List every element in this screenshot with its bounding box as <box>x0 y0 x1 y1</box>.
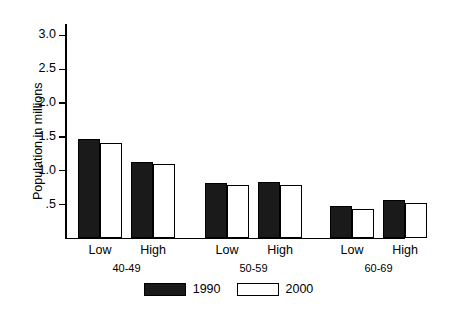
legend-item-1990: 1990 <box>144 283 221 296</box>
bar-2000-50-59-High <box>280 185 302 238</box>
x-group-label: 50-59 <box>214 263 294 274</box>
bar-2000-60-69-High <box>405 203 427 238</box>
x-group-label: 40-49 <box>87 263 167 274</box>
x-category-label: Low <box>70 244 130 257</box>
bar-2000-40-49-Low <box>100 143 122 238</box>
bar-1990-40-49-Low <box>78 139 100 238</box>
x-category-label: Low <box>197 244 257 257</box>
legend-label: 2000 <box>286 283 314 296</box>
x-category-label: Low <box>322 244 382 257</box>
x-group-label: 60-69 <box>339 263 419 274</box>
x-category-label: High <box>123 244 183 257</box>
bar-2000-50-59-Low <box>227 185 249 238</box>
x-category-label: High <box>375 244 435 257</box>
legend-item-2000: 2000 <box>237 283 314 296</box>
legend-label: 1990 <box>193 283 221 296</box>
bar-1990-60-69-High <box>383 200 405 238</box>
legend-swatch-2000 <box>237 283 279 296</box>
bar-1990-50-59-High <box>258 182 280 238</box>
bar-2000-60-69-Low <box>352 209 374 238</box>
bar-2000-40-49-High <box>153 164 175 238</box>
bar-chart-figure: Population in millions 3.02.52.01.51.0.5… <box>0 0 457 313</box>
bar-1990-50-59-Low <box>205 183 227 238</box>
bar-1990-40-49-High <box>131 162 153 238</box>
x-category-label: High <box>250 244 310 257</box>
legend-swatch-1990 <box>144 283 186 296</box>
chart-legend: 19902000 <box>0 283 457 296</box>
bar-1990-60-69-Low <box>330 206 352 238</box>
